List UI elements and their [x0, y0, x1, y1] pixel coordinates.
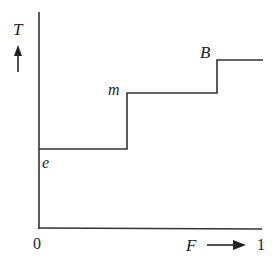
- step-line: [39, 60, 263, 149]
- point-label-b: B: [200, 44, 210, 61]
- y-arrow-icon: [14, 45, 22, 72]
- x-axis-label: F: [186, 237, 196, 254]
- point-label-e: e: [42, 155, 49, 171]
- x-axis: [38, 228, 262, 229]
- point-label-m: m: [108, 82, 120, 98]
- x-arrow-icon: [207, 240, 246, 250]
- x-end-tick-label: 1: [257, 237, 265, 253]
- origin-tick-label: 0: [33, 236, 41, 252]
- y-axis-label: T: [13, 21, 22, 38]
- step-chart: [0, 0, 277, 261]
